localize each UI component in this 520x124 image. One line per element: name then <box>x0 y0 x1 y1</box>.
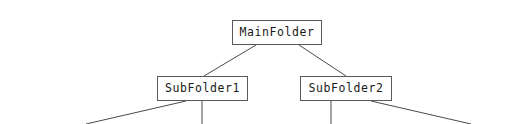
node-main-label: MainFolder <box>239 27 314 39</box>
diagram-canvas: MainFolder SubFolder1 SubFolder2 <box>0 0 520 124</box>
node-sub1-label: SubFolder1 <box>165 83 240 95</box>
edge-main-to-sub2 <box>299 45 346 76</box>
edge-main-to-sub1 <box>204 45 256 76</box>
node-sub2[interactable]: SubFolder2 <box>300 76 392 101</box>
edge-sub1-to-childA <box>86 101 186 124</box>
edge-layer <box>0 0 520 124</box>
node-main[interactable]: MainFolder <box>232 20 322 45</box>
node-sub1[interactable]: SubFolder1 <box>157 76 248 101</box>
node-sub2-label: SubFolder2 <box>308 83 383 95</box>
edge-sub2-to-childB <box>371 101 471 124</box>
